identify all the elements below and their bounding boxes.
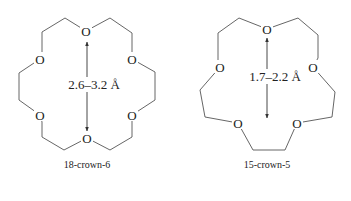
- ring-bonds: [200, 18, 335, 150]
- oxygen-atom: O: [82, 131, 91, 146]
- oxygen-atom: O: [292, 116, 301, 131]
- oxygen-atom: O: [35, 52, 44, 67]
- oxygen-atom: O: [233, 116, 242, 131]
- oxygen-atom: O: [308, 60, 317, 75]
- oxygen-atom: O: [262, 22, 271, 37]
- oxygen-atom: O: [127, 52, 136, 67]
- molecule-18-crown-6: O O O O O O 2.6–3.2 Å 18-crown-6: [19, 18, 155, 170]
- crown-ether-figure: O O O O O O 2.6–3.2 Å 18-crown-6 O O O: [0, 0, 351, 201]
- cavity-diameter-label: 1.7–2.2 Å: [249, 69, 301, 84]
- oxygen-atom: O: [215, 60, 224, 75]
- molecule-15-crown-5: O O O O O 1.7–2.2 Å 15-crown-5: [200, 18, 335, 170]
- molecule-caption: 15-crown-5: [244, 159, 291, 170]
- cavity-diameter-label: 2.6–3.2 Å: [68, 77, 120, 92]
- molecule-caption: 18-crown-6: [64, 159, 111, 170]
- oxygen-atom: O: [81, 24, 90, 39]
- oxygen-atom: O: [35, 108, 44, 123]
- oxygen-atom: O: [127, 108, 136, 123]
